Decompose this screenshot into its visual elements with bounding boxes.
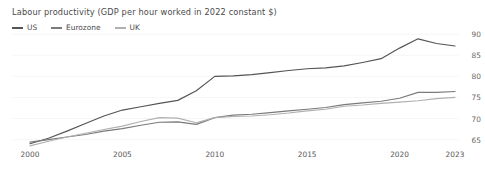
y-axis-tick: 80: [472, 72, 481, 81]
y-axis-tick: 75: [472, 93, 481, 102]
x-axis-tick: 2023: [446, 150, 465, 159]
series-line-eurozone: [30, 92, 455, 143]
y-axis-tick: 65: [472, 135, 481, 144]
legend-swatch-eurozone: [51, 27, 62, 29]
labour-productivity-chart: Labour productivity (GDP per hour worked…: [0, 0, 485, 170]
x-axis-tick: 2000: [21, 150, 40, 159]
x-axis-tick: 2015: [298, 150, 317, 159]
x-axis-tick: 2020: [390, 150, 409, 159]
chart-title: Labour productivity (GDP per hour worked…: [12, 7, 277, 17]
x-axis-tick: 2010: [205, 150, 224, 159]
series-line-uk: [30, 97, 455, 145]
plot-area: [0, 30, 485, 148]
series-lines: [0, 30, 485, 148]
x-axis: 200020052010201520202023: [0, 150, 485, 166]
legend-swatch-uk: [115, 27, 126, 29]
series-line-us: [30, 39, 455, 144]
y-axis-tick: 90: [472, 30, 481, 39]
legend-swatch-us: [12, 27, 23, 29]
y-axis: 657075808590: [457, 30, 481, 148]
x-axis-tick: 2005: [113, 150, 132, 159]
y-axis-tick: 70: [472, 114, 481, 123]
y-axis-tick: 85: [472, 51, 481, 60]
